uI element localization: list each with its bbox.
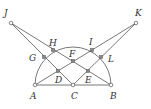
point-H xyxy=(52,49,55,52)
label-L: L xyxy=(107,54,114,64)
point-J xyxy=(9,21,13,25)
segment-JC xyxy=(11,23,73,85)
label-H: H xyxy=(48,38,57,48)
point-E xyxy=(87,70,90,73)
label-G: G xyxy=(29,53,36,63)
label-A: A xyxy=(29,91,37,101)
segment-KC xyxy=(73,23,136,85)
point-C xyxy=(71,83,75,87)
geometry-figure: J K H I G L F D E A C B xyxy=(0,0,151,109)
point-L xyxy=(100,56,103,59)
label-I: I xyxy=(88,37,93,47)
point-B xyxy=(109,83,113,87)
label-J: J xyxy=(2,8,9,18)
point-I xyxy=(91,49,94,52)
diagram-canvas: J K H I G L F D E A C B xyxy=(0,0,151,109)
label-B: B xyxy=(109,91,117,101)
label-K: K xyxy=(134,8,143,18)
point-K xyxy=(134,21,138,25)
label-F: F xyxy=(68,49,76,59)
point-F xyxy=(72,60,75,63)
label-C: C xyxy=(71,91,78,101)
label-E: E xyxy=(84,75,92,85)
point-D xyxy=(57,70,60,73)
point-A xyxy=(33,83,37,87)
label-D: D xyxy=(54,75,62,85)
point-G xyxy=(43,56,46,59)
